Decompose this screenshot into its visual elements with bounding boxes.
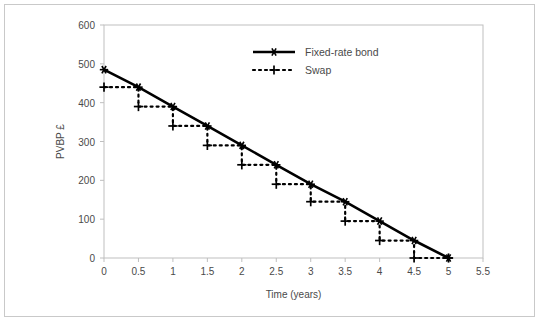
x-tick-label: 0.5: [132, 266, 146, 277]
y-axis-label: PVBP £: [55, 124, 66, 159]
y-tick-label: 200: [78, 175, 95, 186]
chart-figure: 00.511.522.533.544.555.50100200300400500…: [0, 0, 541, 328]
x-tick-label: 2.5: [269, 266, 283, 277]
x-tick-label: 0: [101, 266, 107, 277]
x-tick-label: 2: [239, 266, 245, 277]
plot-area-border: [104, 25, 483, 258]
y-tick-label: 100: [78, 214, 95, 225]
series-swap: [99, 83, 453, 263]
x-tick-label: 5.5: [476, 266, 490, 277]
y-tick-label: 400: [78, 98, 95, 109]
y-tick-label: 0: [89, 253, 95, 264]
x-tick-label: 4: [377, 266, 383, 277]
swap-line: [104, 87, 449, 258]
series-fixed-rate-bond: [100, 66, 453, 262]
x-tick-label: 1: [170, 266, 176, 277]
y-tick-label: 600: [78, 20, 95, 31]
x-tick-label: 3: [308, 266, 314, 277]
x-tick-label: 1.5: [200, 266, 214, 277]
chart-canvas: 00.511.522.533.544.555.50100200300400500…: [0, 0, 541, 328]
y-tick-label: 300: [78, 137, 95, 148]
y-tick-label: 500: [78, 59, 95, 70]
x-tick-label: 3.5: [338, 266, 352, 277]
x-tick-label: 5: [446, 266, 452, 277]
x-axis-label: Time (years): [266, 289, 322, 300]
legend-label-fixed-rate-bond: Fixed-rate bond: [305, 46, 379, 58]
x-tick-label: 4.5: [407, 266, 421, 277]
legend-label-swap: Swap: [305, 64, 331, 76]
chart-legend: Fixed-rate bondSwap: [253, 46, 379, 76]
